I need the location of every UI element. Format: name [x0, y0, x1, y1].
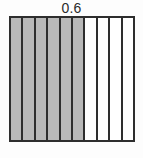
fraction-bar-grid — [9, 16, 135, 142]
value-label: 0.6 — [0, 1, 143, 15]
fraction-column-3 — [36, 18, 48, 140]
fraction-column-4 — [48, 18, 60, 140]
fraction-column-2 — [23, 18, 35, 140]
fraction-model-figure: 0.6 — [0, 0, 143, 158]
fraction-column-1 — [11, 18, 23, 140]
fraction-column-6 — [73, 18, 85, 140]
fraction-column-8 — [98, 18, 110, 140]
fraction-column-5 — [61, 18, 73, 140]
fraction-column-7 — [85, 18, 97, 140]
fraction-column-9 — [110, 18, 122, 140]
fraction-column-10 — [123, 18, 133, 140]
